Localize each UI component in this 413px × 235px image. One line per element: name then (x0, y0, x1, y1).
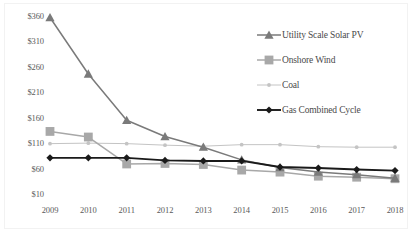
square-marker-icon (256, 53, 282, 67)
legend-item-label: Coal (282, 80, 299, 90)
triangle-marker-icon (256, 28, 282, 42)
legend-item-gas-combined-cycle[interactable]: Gas Combined Cycle (256, 99, 408, 121)
legend-item-coal[interactable]: Coal (256, 74, 408, 96)
legend-item-onshore-wind[interactable]: Onshore Wind (256, 49, 408, 71)
legend-item-label: Onshore Wind (282, 55, 335, 65)
line-chart: $10$60$110$160$210$260$310$360 200920102… (0, 0, 413, 235)
legend-item-utility-scale-solar-pv[interactable]: Utility Scale Solar PV (256, 24, 408, 46)
circle-marker-icon (256, 78, 282, 92)
legend-item-label: Utility Scale Solar PV (282, 30, 363, 40)
legend-item-label: Gas Combined Cycle (282, 105, 361, 115)
chart-legend: Utility Scale Solar PVOnshore WindCoalGa… (256, 24, 408, 124)
series-gas-combined-cycle (46, 154, 398, 174)
diamond-marker-icon (256, 103, 282, 117)
